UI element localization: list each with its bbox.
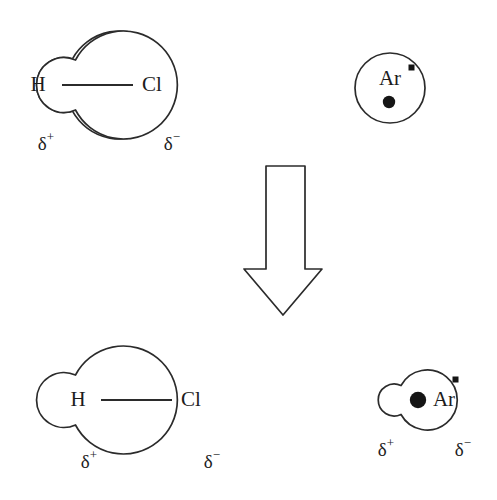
argon-electron-dot-bottom xyxy=(453,377,459,383)
down-arrow-shape xyxy=(244,166,322,315)
molecular-diagram-canvas: H Cl δ+ δ− Ar H Cl δ+ δ− Ar xyxy=(0,0,497,500)
transition-arrow xyxy=(244,166,322,315)
top-hcl-molecule: H Cl δ+ δ− xyxy=(30,31,180,154)
argon-delta-negative-label: δ− xyxy=(455,435,471,460)
h-atom-label-bottom: H xyxy=(70,387,85,411)
argon-nucleus-dot-bottom xyxy=(410,392,426,408)
bottom-hcl-molecule: H Cl δ+ δ− xyxy=(37,346,221,472)
hcl-delta-positive-label: δ+ xyxy=(38,129,54,154)
h-atom-label: H xyxy=(30,72,45,96)
hcl-delta-negative-label-bottom: δ− xyxy=(204,447,220,472)
argon-atom-label: Ar xyxy=(379,66,401,90)
diagram-root: H Cl δ+ δ− Ar H Cl δ+ δ− Ar xyxy=(0,0,497,500)
top-argon-atom: Ar xyxy=(355,53,425,123)
cl-atom-label: Cl xyxy=(142,72,162,96)
argon-nucleus-dot xyxy=(383,96,395,108)
hcl-delta-negative-label: δ− xyxy=(164,129,180,154)
argon-delta-positive-label: δ+ xyxy=(378,435,394,460)
argon-atom-label-bottom: Ar xyxy=(433,387,455,411)
bottom-argon-atom: Ar δ+ δ− xyxy=(378,370,471,460)
hcl-delta-positive-label-bottom: δ+ xyxy=(81,447,97,472)
cl-atom-label-bottom: Cl xyxy=(181,387,201,411)
argon-electron-dot xyxy=(409,65,415,71)
